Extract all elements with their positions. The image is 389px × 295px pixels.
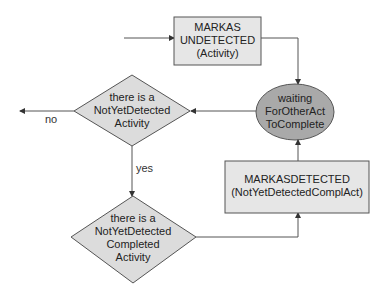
decision-completed-diamond	[71, 196, 196, 283]
box-to-waiting-arrow	[261, 38, 298, 84]
decision-to-mark-detected-arrow	[196, 213, 298, 237]
yes-label: yes	[136, 162, 153, 174]
flowchart-canvas	[0, 0, 389, 295]
decision-not-yet-detected-diamond	[74, 75, 190, 146]
mark-detected-box	[225, 161, 369, 213]
mark-undetected-box	[174, 17, 261, 65]
no-label: no	[45, 113, 57, 125]
waiting-ellipse	[256, 84, 334, 140]
